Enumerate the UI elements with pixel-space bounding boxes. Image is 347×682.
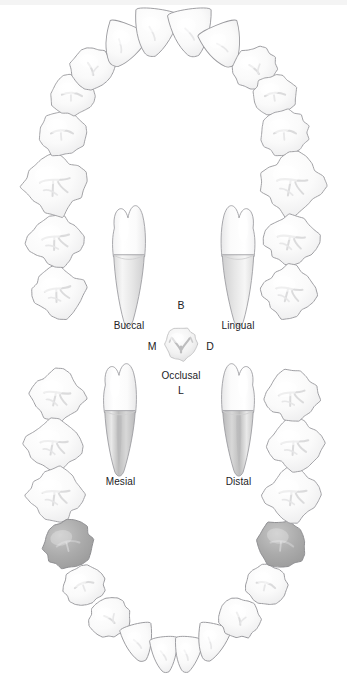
tooth-view-mesial	[104, 364, 137, 476]
tooth	[258, 149, 329, 220]
tooth	[25, 466, 86, 522]
orientation-letter-mesial: M	[143, 341, 161, 352]
view-label-distal: Distal	[219, 476, 258, 487]
tooth	[261, 211, 323, 268]
tooth	[262, 466, 322, 523]
tooth-view-lingual	[221, 206, 255, 327]
tooth	[39, 111, 86, 156]
tooth	[26, 365, 90, 426]
tooth	[23, 213, 88, 271]
tooth	[28, 260, 91, 324]
orientation-letter-buccal: B	[172, 300, 190, 311]
tooth-view-occlusal	[165, 328, 198, 361]
view-label-occlusal: Occlusal	[154, 370, 208, 381]
orientation-letter-lingual: L	[172, 385, 190, 396]
tooth	[18, 151, 90, 221]
tooth	[257, 260, 322, 324]
tooth	[38, 515, 98, 571]
tooth	[21, 417, 84, 475]
tooth	[261, 366, 322, 425]
view-label-buccal: Buccal	[108, 320, 150, 331]
tooth	[261, 109, 309, 156]
orientation-letter-distal: D	[201, 341, 219, 352]
arch-artwork	[0, 0, 347, 682]
tooth	[253, 516, 310, 571]
tooth-view-buccal	[113, 206, 146, 327]
tooth	[252, 73, 298, 117]
tooth	[265, 415, 327, 473]
view-label-mesial: Mesial	[100, 476, 141, 487]
tooth-view-distal	[222, 364, 255, 476]
dental-diagram: Buccal Lingual Occlusal Mesial Distal B …	[0, 0, 347, 682]
view-label-lingual: Lingual	[215, 320, 261, 331]
